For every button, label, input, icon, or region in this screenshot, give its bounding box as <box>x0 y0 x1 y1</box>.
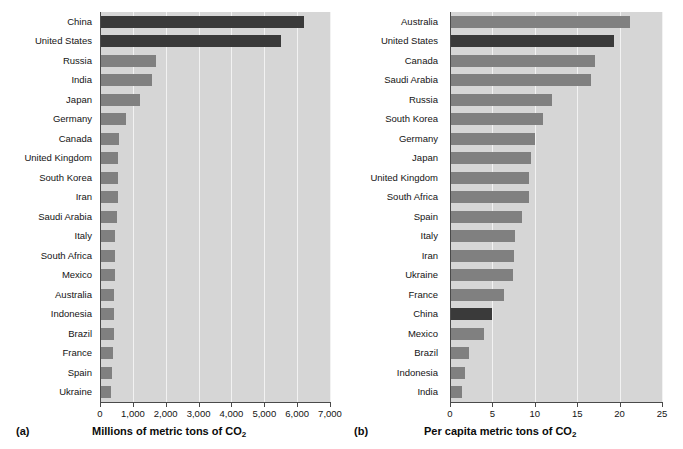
axis-tick-label: 5 <box>490 408 495 419</box>
bar <box>100 55 156 67</box>
axis-tick <box>330 402 331 407</box>
bar <box>450 289 504 301</box>
category-label: Ukraine <box>405 270 438 280</box>
category-label: Brazil <box>414 348 438 358</box>
axis-tick <box>662 402 663 407</box>
axis-tick <box>620 402 621 407</box>
bars-a <box>100 12 330 402</box>
x-axis-title-b-subscript: 2 <box>572 430 576 439</box>
category-label: Italy <box>421 231 438 241</box>
category-label: Australia <box>401 17 438 27</box>
bar <box>450 191 529 203</box>
category-label: Spain <box>414 212 438 222</box>
category-label: Ukraine <box>59 387 92 397</box>
axis-tick <box>297 402 298 407</box>
category-label: Italy <box>75 231 92 241</box>
panel-tag-b: (b) <box>354 425 368 437</box>
bar <box>450 230 515 242</box>
axis-tick-label: 10 <box>530 408 541 419</box>
chart-panel-a: ChinaUnited StatesRussiaIndiaJapanGerman… <box>0 0 342 449</box>
category-label: China <box>67 17 92 27</box>
axis-tick-label: 2,000 <box>154 408 178 419</box>
category-label: Japan <box>412 153 438 163</box>
category-label: Canada <box>405 56 438 66</box>
category-labels-a: ChinaUnited StatesRussiaIndiaJapanGerman… <box>0 12 96 402</box>
x-axis-title-a-text: Millions of metric tons of CO <box>92 425 242 437</box>
axis-tick <box>535 402 536 407</box>
bar <box>450 16 630 28</box>
x-axis-title-a-subscript: 2 <box>242 430 246 439</box>
bar <box>450 133 535 145</box>
bar <box>100 230 115 242</box>
category-label: Spain <box>68 368 92 378</box>
axis-tick <box>166 402 167 407</box>
category-label: United Kingdom <box>370 173 438 183</box>
axis-tick <box>577 402 578 407</box>
gridline <box>662 12 663 402</box>
bar <box>450 211 522 223</box>
category-label: Germany <box>53 114 92 124</box>
category-label: Brazil <box>68 329 92 339</box>
bar <box>100 74 152 86</box>
axis-tick-label: 4,000 <box>220 408 244 419</box>
bars-b <box>450 12 662 402</box>
axis-tick <box>231 402 232 407</box>
x-axis-title-b: Per capita metric tons of CO2 <box>424 425 576 439</box>
axis-tick-label: 25 <box>657 408 668 419</box>
axis-tick <box>100 402 101 407</box>
bar <box>100 35 281 47</box>
category-label: Russia <box>409 95 438 105</box>
category-label: Japan <box>66 95 92 105</box>
category-label: United Kingdom <box>24 153 92 163</box>
category-label: Canada <box>59 134 92 144</box>
bar <box>450 35 614 47</box>
axis-tick-label: 7,000 <box>318 408 342 419</box>
axis-tick-label: 6,000 <box>285 408 309 419</box>
bar <box>450 347 469 359</box>
axis-tick <box>199 402 200 407</box>
category-label: Iran <box>76 192 92 202</box>
bar <box>450 250 514 262</box>
bar <box>100 191 118 203</box>
category-label: Mexico <box>408 329 438 339</box>
category-labels-b: AustraliaUnited StatesCanadaSaudi Arabia… <box>346 12 442 402</box>
x-axis-title-a: Millions of metric tons of CO2 <box>92 425 246 439</box>
chart-panel-b: AustraliaUnited StatesCanadaSaudi Arabia… <box>342 0 683 449</box>
category-label: Indonesia <box>397 368 438 378</box>
bar <box>100 269 115 281</box>
bar <box>450 94 552 106</box>
bar <box>450 113 543 125</box>
axis-tick-label: 15 <box>572 408 583 419</box>
bar <box>450 367 465 379</box>
category-label: South Korea <box>385 114 438 124</box>
bar <box>100 211 117 223</box>
bar <box>450 308 492 320</box>
category-label: South Africa <box>41 251 92 261</box>
axis-tick-label: 1,000 <box>121 408 145 419</box>
category-label: South Korea <box>39 173 92 183</box>
gridline <box>330 12 331 402</box>
category-label: France <box>408 290 438 300</box>
category-label: India <box>417 387 438 397</box>
category-label: China <box>413 309 438 319</box>
y-axis-line-a <box>100 12 101 403</box>
axis-tick <box>492 402 493 407</box>
category-label: Indonesia <box>51 309 92 319</box>
bar <box>100 172 118 184</box>
bar <box>100 367 112 379</box>
y-axis-line-b <box>450 12 451 403</box>
category-label: United States <box>381 36 438 46</box>
category-label: Mexico <box>62 270 92 280</box>
category-label: Germany <box>399 134 438 144</box>
axis-tick <box>133 402 134 407</box>
co2-emissions-figure: ChinaUnited StatesRussiaIndiaJapanGerman… <box>0 0 683 449</box>
plot-area-b <box>450 12 662 402</box>
category-label: United States <box>35 36 92 46</box>
x-axis-title-b-text: Per capita metric tons of CO <box>424 425 572 437</box>
bar <box>450 269 513 281</box>
bar <box>100 328 114 340</box>
x-axis-line-b <box>450 402 663 403</box>
bar <box>450 328 484 340</box>
axis-tick-label: 0 <box>447 408 452 419</box>
bar <box>100 133 119 145</box>
